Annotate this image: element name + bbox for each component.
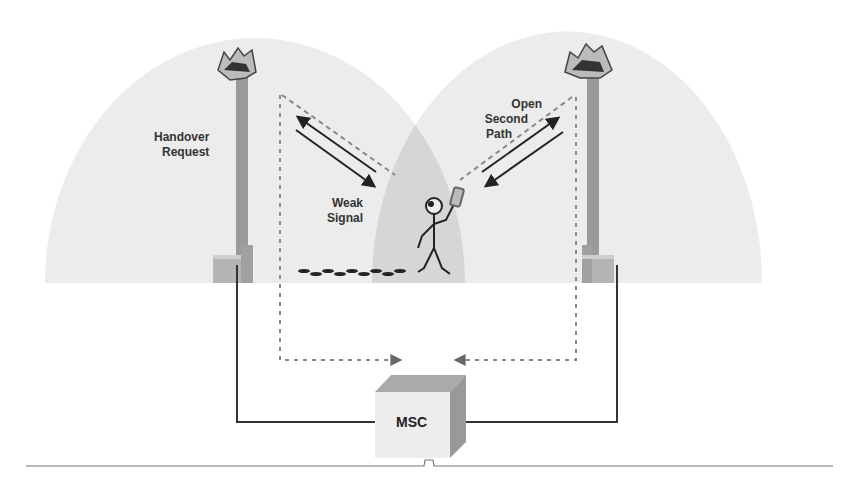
- handover-request-label: Handover Request: [154, 130, 209, 160]
- handover-label-line1: Handover: [154, 130, 209, 145]
- link-left-tower-msc: [237, 265, 375, 422]
- open-label-line2: Second: [455, 112, 544, 127]
- handover-diagram: [0, 0, 855, 496]
- msc-label: MSC: [396, 414, 427, 430]
- open-label-line1: Open: [455, 97, 544, 112]
- open-label-line3: Path: [455, 127, 544, 142]
- baseline: [26, 460, 833, 466]
- open-second-path-label: Open Second Path: [455, 97, 544, 142]
- weak-label-line1: Weak: [327, 196, 363, 211]
- handover-label-line2: Request: [154, 145, 209, 160]
- link-right-tower-msc: [466, 265, 617, 422]
- weak-signal-label: Weak Signal: [327, 196, 363, 226]
- weak-label-line2: Signal: [327, 211, 363, 226]
